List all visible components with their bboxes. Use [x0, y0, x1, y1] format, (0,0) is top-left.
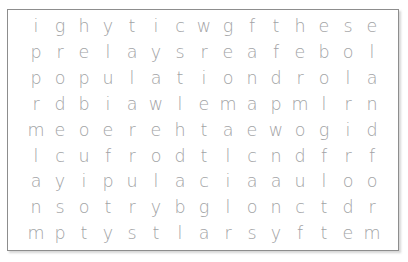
grid-letter-cell[interactable]: l: [216, 148, 240, 166]
grid-letter-cell[interactable]: e: [48, 122, 72, 140]
grid-letter-cell[interactable]: e: [336, 225, 360, 243]
grid-letter-cell[interactable]: n: [264, 199, 288, 217]
grid-letter-cell[interactable]: l: [168, 96, 192, 114]
grid-letter-cell[interactable]: e: [72, 44, 96, 62]
grid-letter-cell[interactable]: t: [144, 225, 168, 243]
grid-letter-cell[interactable]: p: [264, 96, 288, 114]
grid-letter-cell[interactable]: d: [336, 199, 360, 217]
grid-letter-cell[interactable]: o: [216, 70, 240, 88]
grid-letter-cell[interactable]: d: [288, 148, 312, 166]
grid-letter-cell[interactable]: t: [312, 199, 336, 217]
grid-letter-cell[interactable]: f: [264, 44, 288, 62]
grid-letter-cell[interactable]: c: [192, 173, 216, 191]
grid-letter-cell[interactable]: r: [120, 148, 144, 166]
grid-letter-cell[interactable]: r: [192, 44, 216, 62]
grid-letter-cell[interactable]: a: [192, 225, 216, 243]
grid-letter-cell[interactable]: r: [216, 225, 240, 243]
grid-letter-cell[interactable]: d: [264, 70, 288, 88]
grid-letter-cell[interactable]: a: [264, 173, 288, 191]
grid-letter-cell[interactable]: o: [48, 70, 72, 88]
grid-letter-cell[interactable]: s: [168, 44, 192, 62]
grid-letter-cell[interactable]: a: [24, 173, 48, 191]
grid-letter-cell[interactable]: n: [264, 148, 288, 166]
grid-letter-cell[interactable]: m: [24, 122, 48, 140]
grid-letter-cell[interactable]: u: [120, 173, 144, 191]
grid-letter-cell[interactable]: l: [96, 44, 120, 62]
grid-letter-cell[interactable]: a: [168, 173, 192, 191]
grid-letter-cell[interactable]: a: [240, 96, 264, 114]
grid-letter-cell[interactable]: e: [144, 122, 168, 140]
grid-letter-cell[interactable]: a: [360, 70, 384, 88]
grid-letter-cell[interactable]: i: [216, 173, 240, 191]
grid-letter-cell[interactable]: l: [336, 70, 360, 88]
grid-letter-cell[interactable]: t: [96, 199, 120, 217]
grid-letter-cell[interactable]: e: [312, 18, 336, 36]
grid-letter-cell[interactable]: l: [168, 225, 192, 243]
grid-letter-cell[interactable]: e: [360, 18, 384, 36]
grid-letter-cell[interactable]: l: [312, 173, 336, 191]
grid-letter-cell[interactable]: s: [336, 18, 360, 36]
grid-letter-cell[interactable]: m: [288, 96, 312, 114]
grid-letter-cell[interactable]: o: [288, 122, 312, 140]
grid-letter-cell[interactable]: i: [144, 18, 168, 36]
grid-letter-cell[interactable]: m: [24, 225, 48, 243]
grid-letter-cell[interactable]: f: [96, 148, 120, 166]
grid-letter-cell[interactable]: r: [360, 199, 384, 217]
grid-letter-cell[interactable]: p: [24, 44, 48, 62]
grid-letter-cell[interactable]: h: [288, 18, 312, 36]
grid-letter-cell[interactable]: o: [312, 70, 336, 88]
grid-letter-cell[interactable]: i: [24, 18, 48, 36]
grid-letter-cell[interactable]: t: [264, 18, 288, 36]
grid-letter-cell[interactable]: a: [120, 44, 144, 62]
grid-letter-cell[interactable]: y: [144, 44, 168, 62]
grid-letter-cell[interactable]: u: [288, 173, 312, 191]
grid-letter-cell[interactable]: a: [240, 173, 264, 191]
grid-letter-cell[interactable]: t: [312, 225, 336, 243]
grid-letter-cell[interactable]: r: [120, 199, 144, 217]
grid-letter-cell[interactable]: y: [144, 199, 168, 217]
grid-letter-cell[interactable]: l: [120, 70, 144, 88]
grid-letter-cell[interactable]: r: [120, 122, 144, 140]
grid-letter-cell[interactable]: r: [48, 44, 72, 62]
grid-letter-cell[interactable]: d: [360, 122, 384, 140]
grid-letter-cell[interactable]: y: [264, 225, 288, 243]
grid-letter-cell[interactable]: d: [168, 148, 192, 166]
grid-letter-cell[interactable]: l: [216, 199, 240, 217]
grid-letter-cell[interactable]: l: [24, 148, 48, 166]
grid-letter-cell[interactable]: i: [336, 122, 360, 140]
grid-letter-cell[interactable]: c: [240, 148, 264, 166]
grid-letter-cell[interactable]: h: [72, 18, 96, 36]
grid-letter-cell[interactable]: t: [192, 148, 216, 166]
grid-letter-cell[interactable]: t: [192, 122, 216, 140]
grid-letter-cell[interactable]: b: [312, 44, 336, 62]
grid-letter-cell[interactable]: l: [360, 44, 384, 62]
grid-letter-cell[interactable]: p: [24, 70, 48, 88]
grid-letter-cell[interactable]: l: [312, 96, 336, 114]
grid-letter-cell[interactable]: g: [216, 18, 240, 36]
grid-letter-cell[interactable]: u: [96, 70, 120, 88]
grid-letter-cell[interactable]: o: [72, 199, 96, 217]
grid-letter-cell[interactable]: g: [192, 199, 216, 217]
grid-letter-cell[interactable]: m: [216, 96, 240, 114]
grid-letter-cell[interactable]: s: [120, 225, 144, 243]
grid-letter-cell[interactable]: t: [120, 18, 144, 36]
grid-letter-cell[interactable]: e: [240, 122, 264, 140]
grid-letter-cell[interactable]: a: [240, 44, 264, 62]
grid-letter-cell[interactable]: w: [264, 122, 288, 140]
grid-letter-cell[interactable]: t: [72, 225, 96, 243]
grid-letter-cell[interactable]: u: [72, 148, 96, 166]
grid-letter-cell[interactable]: r: [288, 70, 312, 88]
grid-letter-cell[interactable]: e: [288, 44, 312, 62]
grid-letter-cell[interactable]: h: [168, 122, 192, 140]
grid-letter-cell[interactable]: f: [360, 148, 384, 166]
grid-letter-cell[interactable]: f: [312, 148, 336, 166]
grid-letter-cell[interactable]: e: [192, 96, 216, 114]
grid-letter-cell[interactable]: p: [72, 70, 96, 88]
grid-letter-cell[interactable]: d: [48, 96, 72, 114]
grid-letter-cell[interactable]: g: [312, 122, 336, 140]
grid-letter-cell[interactable]: o: [336, 173, 360, 191]
grid-letter-cell[interactable]: m: [360, 225, 384, 243]
grid-letter-cell[interactable]: c: [288, 199, 312, 217]
grid-letter-cell[interactable]: n: [24, 199, 48, 217]
grid-letter-cell[interactable]: o: [240, 199, 264, 217]
